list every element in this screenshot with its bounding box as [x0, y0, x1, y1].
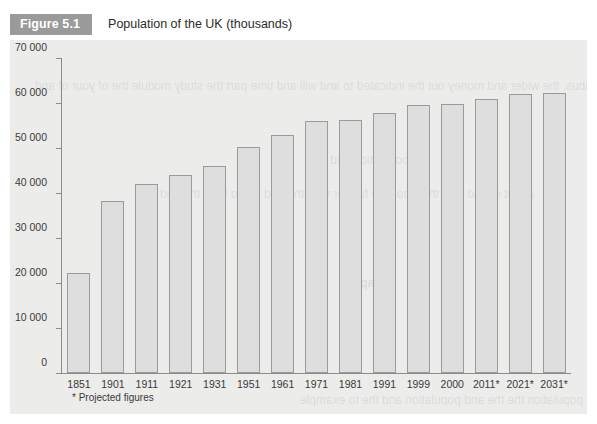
x-axis-tick-label: 1999: [407, 378, 430, 390]
x-axis-tick-label: 1951: [237, 378, 260, 390]
bar-slot: 1851: [62, 58, 96, 373]
bar: [305, 121, 328, 373]
x-axis-tick-label: 2031*: [540, 378, 567, 390]
bar-slot: 1951: [232, 58, 266, 373]
y-axis-tick-label: 0: [41, 356, 47, 368]
figure-title: Population of the UK (thousands): [108, 17, 292, 31]
bar: [407, 105, 430, 373]
bar-slot: 1981: [334, 58, 368, 373]
bar-slot: 2021*: [503, 58, 537, 373]
bar-slot: 2011*: [469, 58, 503, 373]
bar-slot: 1999: [401, 58, 435, 373]
bar: [373, 113, 396, 373]
y-axis-tick-label: 70 000: [15, 41, 47, 53]
bar: [169, 175, 192, 373]
bar: [135, 184, 158, 373]
bar-slot: 1971: [300, 58, 334, 373]
bar: [339, 120, 362, 373]
y-axis-tick: 0: [56, 373, 61, 374]
bar: [475, 99, 498, 374]
y-axis-tick: 60 000: [56, 103, 61, 104]
bar-slot: 1961: [266, 58, 300, 373]
bar-slot: 1911: [130, 58, 164, 373]
x-axis-tick-label: 1971: [305, 378, 328, 390]
x-axis-line: [61, 373, 571, 374]
bar: [101, 201, 124, 373]
x-axis-tick-label: 1921: [169, 378, 192, 390]
bar-series: 1851190119111921193119511961197119811991…: [62, 58, 571, 373]
bar: [271, 135, 294, 373]
y-axis-tick-label: 60 000: [15, 86, 47, 98]
x-axis-tick-label: 2000: [441, 378, 464, 390]
x-axis-tick-label: 1981: [339, 378, 362, 390]
bar: [67, 273, 90, 373]
x-axis-tick-label: 1851: [67, 378, 90, 390]
x-axis-tick-label: 2011*: [473, 378, 500, 390]
y-axis-tick: 10 000: [56, 328, 61, 329]
y-axis-tick: 50 000: [56, 148, 61, 149]
bar-slot: 2000: [435, 58, 469, 373]
y-axis-tick: 40 000: [56, 193, 61, 194]
bar: [441, 104, 464, 373]
chart-panel: Population the main the the to welcome i…: [10, 40, 587, 414]
y-axis-tick-label: 30 000: [15, 221, 47, 233]
ghost-text-block-4: the and the and population the the and p…: [300, 392, 587, 409]
figure-container: Figure 5.1 Population of the UK (thousan…: [0, 0, 597, 424]
plot-area: 010 00020 00030 00040 00050 00060 00070 …: [61, 58, 571, 374]
bar-slot: 1991: [367, 58, 401, 373]
x-axis-tick-label: 1961: [271, 378, 294, 390]
figure-footnote: * Projected figures: [72, 392, 154, 403]
y-axis-tick-label: 50 000: [15, 131, 47, 143]
bar: [203, 166, 226, 373]
x-axis-tick-label: 1991: [373, 378, 396, 390]
x-axis-tick-label: 2021*: [506, 378, 533, 390]
figure-number-badge: Figure 5.1: [10, 14, 92, 35]
y-axis-tick-label: 40 000: [15, 176, 47, 188]
y-axis-tick: 20 000: [56, 283, 61, 284]
bar-slot: 1901: [96, 58, 130, 373]
bar: [509, 94, 532, 373]
y-axis-tick-label: 20 000: [15, 266, 47, 278]
y-axis-tick-label: 10 000: [15, 311, 47, 323]
bar: [543, 93, 566, 373]
bar-slot: 1921: [164, 58, 198, 373]
y-axis-tick: 30 000: [56, 238, 61, 239]
bar: [237, 147, 260, 373]
bar-slot: 2031*: [537, 58, 571, 373]
x-axis-tick-label: 1931: [203, 378, 226, 390]
x-axis-tick-label: 1911: [136, 378, 159, 390]
y-axis-tick: 70 000: [56, 58, 61, 59]
figure-caption: Figure 5.1 Population of the UK (thousan…: [10, 13, 587, 35]
bar-slot: 1931: [198, 58, 232, 373]
x-axis-tick-label: 1901: [101, 378, 124, 390]
